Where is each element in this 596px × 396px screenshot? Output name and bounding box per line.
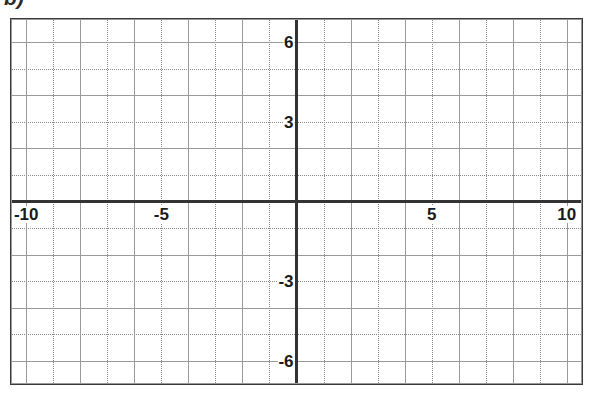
y-axis-line: [295, 18, 298, 385]
y-axis-tick-label: 6: [283, 33, 294, 50]
x-axis-tick-label: -10: [13, 206, 40, 223]
y-axis-tick-label: 3: [283, 113, 294, 130]
y-axis-tick-label: -6: [277, 353, 294, 370]
x-axis-tick-label: 10: [556, 206, 577, 223]
y-axis-tick-label: -3: [277, 273, 294, 290]
x-axis-tick-label: 5: [426, 206, 437, 223]
coordinate-grid-panel: -10-551063-3-6: [10, 18, 583, 385]
problem-label: b): [4, 0, 24, 8]
x-axis-tick-label: -5: [153, 206, 170, 223]
